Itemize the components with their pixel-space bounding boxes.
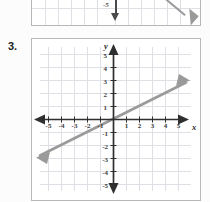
x-tick-label: 2 — [138, 122, 142, 130]
y-tick-label: -4 — [102, 169, 108, 177]
previous-problem-y-tick-label: -5 — [103, 1, 109, 9]
y-tick-label: 5 — [104, 52, 108, 60]
problem-number-label: 3. — [8, 40, 17, 52]
x-tick-label: 5 — [177, 122, 181, 130]
coordinate-plane: -5 -4 -3 -2 -1 1 2 3 4 5 5 4 3 2 — [32, 39, 200, 200]
y-tick-label: -3 — [102, 156, 108, 164]
y-tick-label: 4 — [104, 65, 108, 73]
x-axis-label: x — [191, 122, 197, 132]
y-tick-label: 1 — [104, 104, 108, 112]
x-tick-label: -3 — [72, 122, 78, 130]
x-tick-label: 4 — [164, 122, 168, 130]
previous-problem-y-axis-arrow-icon — [111, 13, 119, 21]
problem-3-graph-box: -5 -4 -3 -2 -1 1 2 3 4 5 5 4 3 2 — [31, 38, 201, 201]
x-tick-label: 3 — [151, 122, 155, 130]
y-axis-label: y — [103, 41, 108, 51]
x-tick-label: -4 — [59, 122, 65, 130]
previous-problem-graph-box: -5 — [31, 0, 201, 26]
y-tick-label: -1 — [102, 130, 108, 138]
coordinate-plane-svg: -5 -4 -3 -2 -1 1 2 3 4 5 5 4 3 2 — [32, 39, 199, 199]
y-tick-label: -5 — [102, 182, 108, 190]
x-tick-label: -2 — [85, 122, 91, 130]
y-tick-label: -2 — [102, 143, 108, 151]
y-tick-label: 3 — [104, 78, 108, 86]
worksheet-page: -5 3. — [0, 0, 210, 202]
x-tick-label: -5 — [46, 122, 52, 130]
x-tick-label: 1 — [125, 122, 129, 130]
y-tick-label: 2 — [104, 91, 108, 99]
